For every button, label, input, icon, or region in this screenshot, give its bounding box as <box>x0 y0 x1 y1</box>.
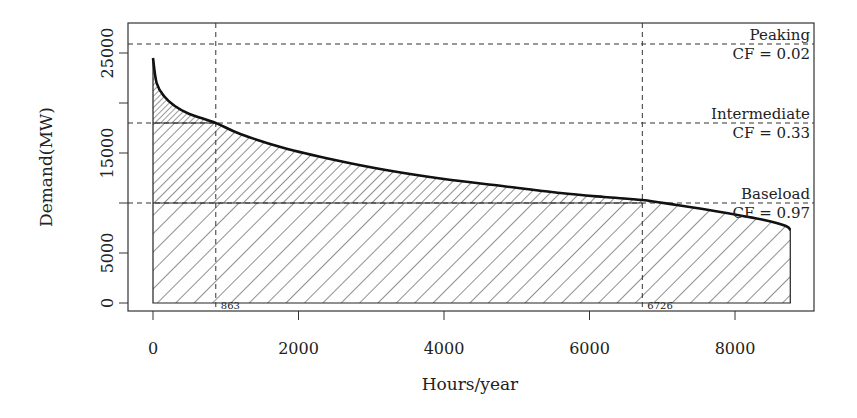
threshold-name: Peaking <box>750 26 811 44</box>
x-tick-label: 4000 <box>424 339 465 358</box>
y-tick-label: 15000 <box>98 128 117 179</box>
threshold-name: Intermediate <box>711 105 810 123</box>
x-tick-label: 8000 <box>715 339 756 358</box>
hatched-regions <box>153 3 790 303</box>
y-tick-label: 25000 <box>98 28 117 79</box>
load-duration-chart: 8636726 02000400060008000 05000150002500… <box>0 0 857 418</box>
capacity-factor-label: CF = 0.33 <box>733 124 810 142</box>
y-tick-label: 0 <box>98 298 117 308</box>
baseload-region <box>153 203 790 303</box>
threshold-name: Baseload <box>741 185 810 203</box>
x-tick-label: 6000 <box>569 339 610 358</box>
x-axis-label: Hours/year <box>422 374 519 394</box>
y-axis-label: Demand(MW) <box>36 107 56 227</box>
marker-label: 863 <box>221 300 240 311</box>
threshold-labels: PeakingCF = 0.02IntermediateCF = 0.33Bas… <box>711 26 810 222</box>
capacity-factor-label: CF = 0.97 <box>733 204 810 222</box>
x-axis: 02000400060008000 <box>148 311 755 358</box>
y-axis: 050001500025000 <box>98 28 129 309</box>
intermediate-region <box>153 123 790 203</box>
y-tick-label: 5000 <box>98 233 117 274</box>
peaking-region <box>153 3 790 123</box>
marker-label: 6726 <box>647 300 672 311</box>
x-tick-label: 0 <box>148 339 158 358</box>
capacity-factor-label: CF = 0.02 <box>733 45 810 63</box>
x-tick-label: 2000 <box>278 339 319 358</box>
